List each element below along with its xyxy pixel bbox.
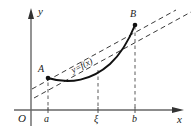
mvt-figure: y x O a ξ b A B y=f(x)	[0, 0, 194, 140]
secant-line-ab	[34, 12, 191, 98]
point-a-marker	[46, 76, 51, 81]
origin-label: O	[18, 113, 26, 124]
function-curve	[48, 25, 135, 81]
tick-label-b: b	[132, 114, 137, 124]
point-b-marker	[133, 23, 138, 28]
tick-label-xi: ξ	[94, 114, 98, 124]
point-a-label: A	[38, 64, 44, 74]
y-axis	[28, 8, 34, 126]
tangent-line-at-xi	[32, 10, 176, 89]
y-axis-label: y	[38, 6, 43, 17]
point-b-label: B	[130, 9, 136, 19]
tick-label-a: a	[44, 114, 49, 124]
y-axis-arrow	[28, 8, 34, 19]
x-axis	[14, 107, 184, 113]
x-axis-label: x	[177, 114, 182, 125]
